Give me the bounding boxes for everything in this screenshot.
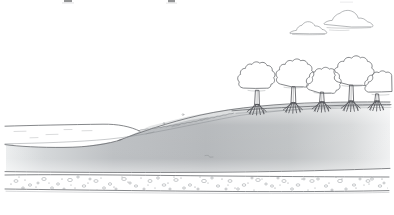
tree-4-canopy-icon: [334, 56, 374, 86]
cloud-right-icon: [324, 10, 373, 30]
tree-5-canopy-icon: [365, 71, 392, 92]
mangrove-cross-section-figure: [0, 0, 394, 215]
sky-layer: [62, 0, 373, 35]
tree-2-canopy-icon: [276, 59, 314, 87]
scene-canvas: [0, 0, 394, 215]
cropped-caption-artifact: [62, 0, 353, 4]
tree-1-canopy-icon: [238, 62, 275, 89]
cloud-left-icon: [290, 22, 327, 35]
tree-5-canopy-texture: [372, 94, 389, 95]
tree-3-canopy-icon: [306, 67, 341, 93]
